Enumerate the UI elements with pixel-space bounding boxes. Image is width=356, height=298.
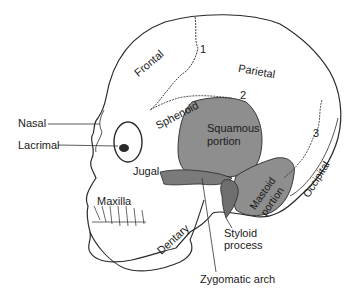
label-squamous-line2: portion bbox=[207, 136, 241, 147]
label-maxilla: Maxilla bbox=[97, 196, 131, 207]
label-styloid-line2: process bbox=[224, 240, 263, 251]
label-squamous-line1: Squamous bbox=[207, 123, 260, 134]
label-styloid-line1: Styloid bbox=[224, 228, 257, 239]
label-nasal: Nasal bbox=[18, 118, 46, 129]
suture-number-3: 3 bbox=[313, 128, 319, 139]
skull-diagram: Frontal Parietal Sphenoid Squamous porti… bbox=[0, 0, 356, 298]
label-lacrimal: Lacrimal bbox=[18, 140, 60, 151]
label-jugal: Jugal bbox=[133, 166, 159, 177]
suture-number-1: 1 bbox=[200, 44, 206, 55]
label-zygomatic-arch: Zygomatic arch bbox=[200, 274, 275, 285]
orbit-shadow bbox=[119, 144, 129, 152]
suture-number-2: 2 bbox=[240, 90, 246, 101]
orbit bbox=[114, 122, 142, 162]
